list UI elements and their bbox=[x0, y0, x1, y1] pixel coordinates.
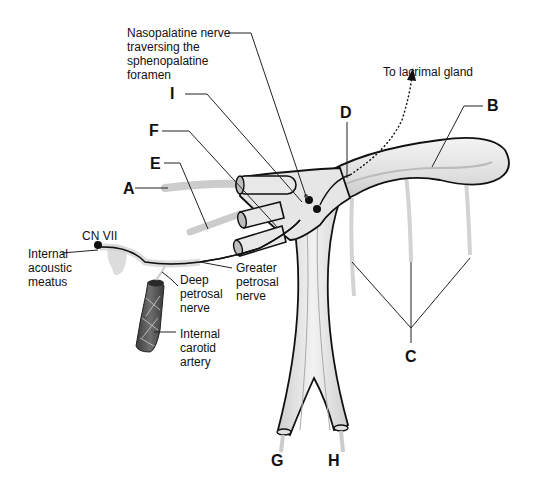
letter-label-i: I bbox=[170, 85, 174, 103]
letter-label-e: E bbox=[150, 155, 161, 173]
label-internal-carotid-artery: Internal carotid artery bbox=[180, 327, 220, 369]
nerve-a bbox=[165, 184, 240, 188]
letter-label-f: F bbox=[149, 122, 159, 140]
letter-label-g: G bbox=[271, 452, 283, 470]
letter-label-h: H bbox=[328, 452, 340, 470]
nerve-e bbox=[190, 214, 240, 232]
letter-label-b: B bbox=[487, 97, 499, 115]
letter-label-c: C bbox=[405, 348, 417, 366]
letter-label-d: D bbox=[340, 104, 352, 122]
letter-label-a: A bbox=[123, 180, 135, 198]
label-deep-petrosal-nerve: Deep petrosal nerve bbox=[180, 273, 223, 315]
label-cn-vii: CN VII bbox=[82, 229, 117, 243]
label-to-lacrimal-gland: To lacrimal gland bbox=[383, 65, 473, 79]
label-nasopalatine-nerve: Nasopalatine nerve traversing the spheno… bbox=[127, 26, 230, 82]
label-internal-acoustic-meatus: Internal acoustic meatus bbox=[28, 247, 72, 289]
structure-internal-carotid-artery bbox=[136, 266, 165, 352]
label-greater-petrosal-nerve: Greater petrosal nerve bbox=[236, 261, 279, 303]
